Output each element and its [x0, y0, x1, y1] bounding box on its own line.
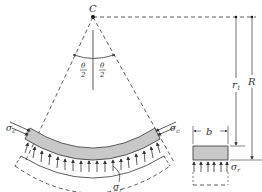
cross-section-radial-arrows — [194, 162, 227, 172]
right-sigma-c-label: σc — [170, 123, 180, 134]
cross-section — [193, 146, 228, 160]
svg-text:θ: θ — [100, 62, 105, 70]
left-sigma-c-label: σc — [6, 123, 16, 134]
sigma-r-leader — [113, 166, 120, 182]
outer-radius-label: R — [247, 76, 256, 87]
center-label: C — [89, 3, 97, 14]
angle-arc — [74, 55, 114, 59]
cross-section-sigma-r-label: σr — [231, 162, 241, 173]
left-half-angle-label: θ 2 — [80, 62, 87, 79]
inner-radius-label: r1 — [232, 79, 241, 91]
svg-text:2: 2 — [80, 71, 86, 79]
curved-sigma-r-label: σr — [113, 182, 123, 192]
right-half-angle-label: θ 2 — [99, 62, 106, 79]
svg-text:θ: θ — [81, 62, 86, 70]
svg-text:2: 2 — [99, 71, 105, 79]
width-label: b — [206, 126, 212, 137]
curved-beam-diagram: C θ 2 θ 2 — [0, 0, 262, 192]
outer-dashed-arc — [15, 166, 170, 192]
curved-beam — [25, 128, 160, 160]
